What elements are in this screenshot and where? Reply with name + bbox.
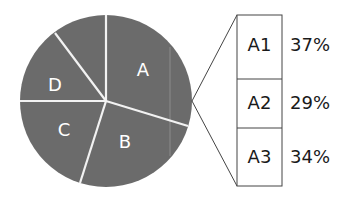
breakdown-row-value-a2: 29%	[290, 92, 330, 113]
breakdown-table: A1 A2 A3 37% 29% 34%	[237, 15, 330, 186]
breakdown-row-value-a1: 37%	[290, 34, 330, 55]
slice-label-a: A	[137, 59, 150, 80]
breakdown-connector	[192, 15, 237, 186]
slice-label-c: C	[58, 119, 71, 140]
pie-chart: A B C D A1 A2 A3 37% 29% 34%	[0, 0, 358, 200]
breakdown-row-label-a1: A1	[248, 34, 272, 55]
breakdown-row-label-a3: A3	[248, 146, 272, 167]
connector-top	[192, 15, 237, 101]
slice-label-d: D	[48, 74, 62, 95]
breakdown-row-value-a3: 34%	[290, 146, 330, 167]
connector-bottom	[192, 101, 237, 186]
breakdown-row-label-a2: A2	[248, 92, 272, 113]
slice-label-b: B	[119, 131, 131, 152]
